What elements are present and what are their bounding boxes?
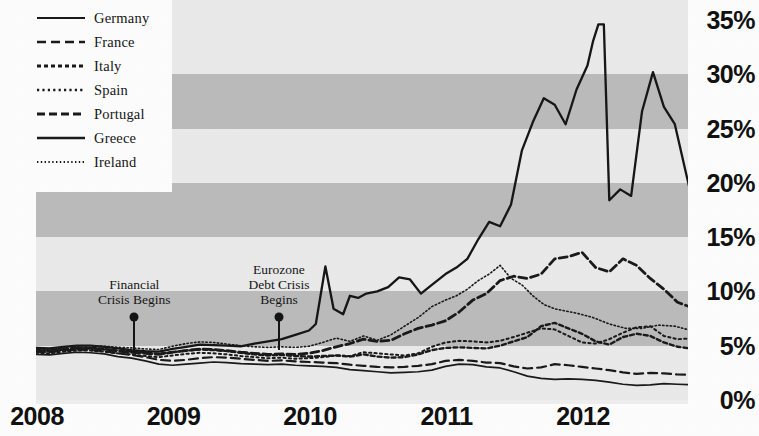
y-axis-tick-25: 25% [706, 114, 755, 143]
y-axis-tick-20: 20% [706, 168, 755, 197]
x-axis-tick-2008: 2008 [10, 402, 64, 431]
y-axis-tick-30: 30% [706, 60, 755, 89]
annotation-eurozone-crisis-dot [274, 313, 283, 322]
legend-label-portugal: Portugal [94, 106, 145, 123]
legend-item-france[interactable]: France [0, 30, 172, 54]
x-axis-tick-2011: 2011 [420, 402, 472, 431]
series-line-germany [36, 352, 688, 385]
legend-swatch-germany-icon [36, 11, 86, 25]
annotation-eurozone-crisis-label: EurozoneDebt CrisisBegins [248, 262, 309, 307]
chart-root: FinancialCrisis Begins EurozoneDebt Cris… [0, 0, 759, 436]
y-axis-tick-15: 15% [706, 223, 755, 252]
x-axis: 20082009201020112012 [0, 398, 759, 436]
legend-item-spain[interactable]: Spain [0, 78, 172, 102]
legend-label-france: France [94, 34, 135, 51]
legend-item-portugal[interactable]: Portugal [0, 102, 172, 126]
legend-item-greece[interactable]: Greece [0, 126, 172, 150]
legend-swatch-portugal-icon [36, 107, 86, 121]
legend-swatch-italy-icon [36, 59, 86, 73]
legend-label-ireland: Ireland [94, 154, 136, 171]
annotation-financial-crisis-dot [130, 313, 139, 322]
annotation-financial-crisis-label: FinancialCrisis Begins [98, 277, 170, 307]
legend-item-germany[interactable]: Germany [0, 6, 172, 30]
legend-swatch-greece-icon [36, 131, 86, 145]
legend-label-germany: Germany [94, 10, 149, 27]
legend-item-italy[interactable]: Italy [0, 54, 172, 78]
y-axis-tick-5: 5% [720, 331, 755, 360]
legend-label-spain: Spain [94, 82, 128, 99]
legend: GermanyFranceItalySpainPortugalGreeceIre… [0, 0, 172, 192]
y-axis: 35%30%25%20%15%10%5%0% [688, 0, 759, 410]
x-axis-tick-2009: 2009 [147, 402, 201, 431]
x-axis-tick-2012: 2012 [556, 402, 610, 431]
legend-swatch-ireland-icon [36, 155, 86, 169]
legend-label-italy: Italy [94, 58, 122, 75]
legend-swatch-france-icon [36, 35, 86, 49]
legend-swatch-spain-icon [36, 83, 86, 97]
x-axis-tick-2010: 2010 [283, 402, 337, 431]
annotation-financial-crisis-stem [133, 317, 135, 350]
y-axis-tick-35: 35% [706, 6, 755, 35]
annotation-eurozone-crisis-stem [278, 317, 280, 350]
legend-item-ireland[interactable]: Ireland [0, 150, 172, 174]
y-axis-tick-10: 10% [706, 277, 755, 306]
legend-label-greece: Greece [94, 130, 136, 147]
